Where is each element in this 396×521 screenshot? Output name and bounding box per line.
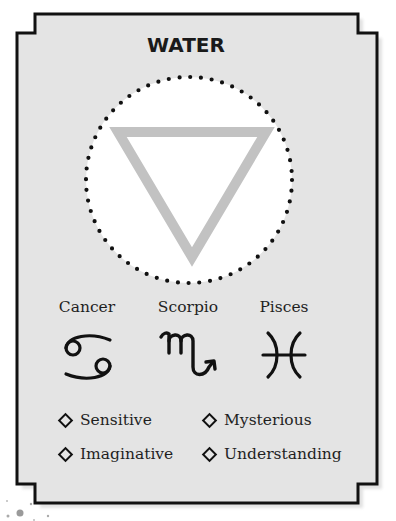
card-frame	[0, 0, 396, 521]
trait-item: Understanding	[204, 445, 342, 463]
sign-label-scorpio: Scorpio	[158, 298, 218, 316]
pisces-glyph-icon	[260, 330, 308, 380]
diamond-bullet-icon	[202, 412, 218, 428]
diamond-bullet-icon	[58, 446, 74, 462]
cancer-glyph-icon	[60, 332, 116, 382]
trait-item: Mysterious	[204, 411, 312, 429]
trait-label: Mysterious	[224, 411, 312, 429]
trait-label: Imaginative	[80, 445, 173, 463]
diamond-bullet-icon	[202, 446, 218, 462]
element-title: WATER	[0, 33, 372, 57]
scorpio-glyph-icon	[157, 329, 225, 381]
trait-item: Sensitive	[60, 411, 152, 429]
diamond-bullet-icon	[58, 412, 74, 428]
trait-label: Sensitive	[80, 411, 152, 429]
trait-label: Understanding	[224, 445, 342, 463]
sign-label-pisces: Pisces	[259, 298, 308, 316]
trait-item: Imaginative	[60, 445, 173, 463]
sign-label-cancer: Cancer	[59, 298, 115, 316]
